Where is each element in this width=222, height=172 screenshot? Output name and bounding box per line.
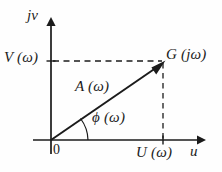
- magnitude-label: A (ω): [75, 79, 109, 94]
- phase-angle-arc: [81, 119, 89, 141]
- phasor-diagram-figure: jv u V (ω) U (ω) G (jω) A (ω) ϕ (ω) 0: [0, 0, 222, 172]
- phasor-vector-group: [51, 61, 166, 141]
- real-axis-arrowhead: [197, 135, 206, 144]
- imaginary-axis-label: jv: [27, 8, 38, 23]
- origin-label: 0: [53, 143, 60, 157]
- real-component-label: U (ω): [136, 145, 172, 160]
- imaginary-axis-arrowhead: [46, 17, 55, 26]
- phase-angle-label: ϕ (ω): [92, 110, 125, 125]
- real-axis-label: u: [190, 144, 198, 159]
- vector-diagram-canvas: [0, 0, 222, 172]
- imaginary-component-label: V (ω): [4, 50, 38, 65]
- imaginary-axis-group: [46, 17, 55, 154]
- vector-endpoint-label: G (jω): [166, 47, 207, 62]
